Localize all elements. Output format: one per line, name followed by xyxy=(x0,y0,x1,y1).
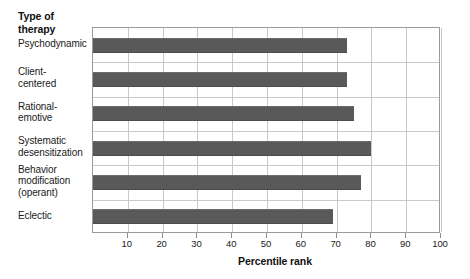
axis-tick-label: 10 xyxy=(112,238,142,249)
axis-tick-label: 40 xyxy=(216,238,246,249)
category-label: Client- centered xyxy=(18,66,92,89)
category-label: Eclectic xyxy=(18,210,92,222)
category-label: Psychodynamic xyxy=(18,38,92,50)
gridline-vertical xyxy=(267,28,268,232)
gridline-horizontal xyxy=(93,200,439,201)
gridline-horizontal xyxy=(93,165,439,166)
gridline-vertical xyxy=(441,28,442,232)
axis-tick-label: 50 xyxy=(251,238,281,249)
gridline-vertical xyxy=(302,28,303,232)
axis-tick-label: 90 xyxy=(390,238,420,249)
category-label-column: PsychodynamicClient- centeredRational- e… xyxy=(18,27,92,233)
gridline-vertical xyxy=(128,28,129,232)
category-label: Rational- emotive xyxy=(18,101,92,124)
gridline-horizontal xyxy=(93,131,439,132)
plot-area xyxy=(92,27,440,233)
gridline-vertical xyxy=(197,28,198,232)
bar xyxy=(93,106,354,121)
gridline-vertical xyxy=(406,28,407,232)
gridline-vertical xyxy=(371,28,372,232)
gridline-vertical xyxy=(163,28,164,232)
bar xyxy=(93,72,347,87)
axis-tick-label: 60 xyxy=(286,238,316,249)
category-label: Systematic desensitization xyxy=(18,135,92,158)
chart-figure: Type of therapy PsychodynamicClient- cen… xyxy=(0,0,470,279)
bar xyxy=(93,38,347,53)
gridline-vertical xyxy=(337,28,338,232)
axis-tick-label: 20 xyxy=(147,238,177,249)
bar xyxy=(93,209,333,224)
bar xyxy=(93,175,361,190)
category-label: Behavior modification (operant) xyxy=(18,164,92,199)
axis-tick-label: 70 xyxy=(321,238,351,249)
value-axis-title: Percentile rank xyxy=(0,255,470,267)
gridline-vertical xyxy=(232,28,233,232)
gridline-horizontal xyxy=(93,97,439,98)
axis-tick-label: 100 xyxy=(425,238,455,249)
bar xyxy=(93,141,371,156)
axis-tick-label: 30 xyxy=(181,238,211,249)
gridline-horizontal xyxy=(93,62,439,63)
axis-tick-label: 80 xyxy=(355,238,385,249)
